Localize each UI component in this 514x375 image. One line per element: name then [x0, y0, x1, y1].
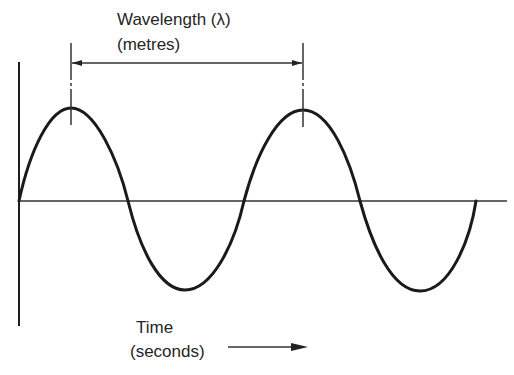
wavelength-label: Wavelength (λ) — [117, 10, 231, 30]
wavelength-unit-label: (metres) — [117, 35, 180, 55]
wavelength-dimension-arrow — [72, 60, 302, 66]
wave-diagram — [0, 0, 514, 375]
time-unit-label: (seconds) — [130, 342, 205, 362]
time-arrow — [228, 343, 308, 351]
sine-wave — [19, 108, 476, 291]
time-label: Time — [136, 318, 173, 338]
